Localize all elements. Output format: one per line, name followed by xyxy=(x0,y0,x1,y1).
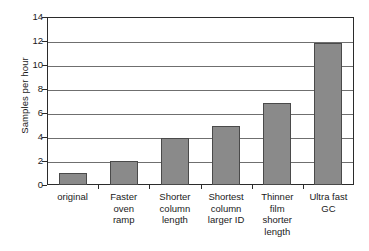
x-axis-category-label: Fasterovenramp xyxy=(98,191,149,226)
y-axis-tick-label: 2 xyxy=(22,156,43,166)
bar-chart-figure: Samples per hour 02468101214 originalFas… xyxy=(0,0,369,251)
bar[interactable] xyxy=(110,161,138,185)
bar-slot xyxy=(303,17,354,185)
y-axis-tick-label: 4 xyxy=(22,132,43,142)
y-axis-tick-labels: 02468101214 xyxy=(22,17,43,185)
bar[interactable] xyxy=(314,43,342,185)
bar[interactable] xyxy=(263,103,291,185)
y-axis-tick-mark xyxy=(42,65,47,66)
x-axis-label-line: shorter xyxy=(252,214,303,226)
bar[interactable] xyxy=(161,138,189,185)
bar-slot xyxy=(149,17,200,185)
x-axis-label-line: Thinner xyxy=(252,191,303,203)
y-axis-tick-label: 10 xyxy=(22,60,43,70)
bar-slot xyxy=(201,17,252,185)
y-axis-tick-label: 8 xyxy=(22,84,43,94)
x-axis-category-label: Shortestcolumnlarger ID xyxy=(201,191,252,226)
bar-slot xyxy=(98,17,149,185)
x-axis-tick-mark xyxy=(201,185,202,189)
bar-slot xyxy=(47,17,98,185)
x-axis-label-line: GC xyxy=(303,203,354,215)
y-axis-tick-mark xyxy=(42,161,47,162)
x-axis-label-line: film xyxy=(252,203,303,215)
bar[interactable] xyxy=(212,126,240,185)
x-axis-category-label: Ultra fastGC xyxy=(303,191,354,214)
y-axis-tick-mark xyxy=(42,17,47,18)
y-axis-tick-mark xyxy=(42,41,47,42)
x-axis-tick-mark xyxy=(252,185,253,189)
y-axis-tick-label: 14 xyxy=(22,12,43,22)
x-axis-category-labels: originalFasterovenrampShortercolumnlengt… xyxy=(47,191,354,249)
x-axis-label-line: Faster xyxy=(98,191,149,203)
x-axis-label-line: column xyxy=(201,203,252,215)
x-axis-label-line: ramp xyxy=(98,214,149,226)
x-axis-label-line: length xyxy=(149,214,200,226)
y-axis-tick-mark xyxy=(42,89,47,90)
x-axis-label-line: oven xyxy=(98,203,149,215)
x-axis-label-line: Ultra fast xyxy=(303,191,354,203)
y-axis-tick-mark xyxy=(42,185,47,186)
x-axis-label-line: original xyxy=(47,191,98,203)
y-axis-tick-mark xyxy=(42,137,47,138)
bar-slot xyxy=(252,17,303,185)
x-axis-label-line: column xyxy=(149,203,200,215)
x-axis-label-line: larger ID xyxy=(201,214,252,226)
bars-layer xyxy=(47,17,354,185)
y-axis-tick-label: 12 xyxy=(22,36,43,46)
y-axis-tick-mark xyxy=(42,113,47,114)
x-axis-category-label: Shortercolumnlength xyxy=(149,191,200,226)
x-axis-category-label: Thinnerfilmshorterlength xyxy=(252,191,303,237)
x-axis-tick-mark xyxy=(98,185,99,189)
y-axis-tick-label: 6 xyxy=(22,108,43,118)
x-axis-label-line: Shortest xyxy=(201,191,252,203)
x-axis-label-line: length xyxy=(252,226,303,238)
y-axis-tick-label: 0 xyxy=(22,180,43,190)
x-axis-category-label: original xyxy=(47,191,98,203)
x-axis-label-line: Shorter xyxy=(149,191,200,203)
bar[interactable] xyxy=(59,173,87,185)
x-axis-tick-mark xyxy=(149,185,150,189)
x-axis-tick-mark xyxy=(303,185,304,189)
